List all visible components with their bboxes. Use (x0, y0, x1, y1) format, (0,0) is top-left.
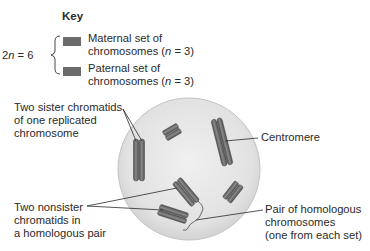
nonsister-chromatids-line2: chromatids in (14, 214, 81, 227)
key-brace (51, 36, 60, 74)
homologous-pair-line3: (one from each set) (265, 229, 362, 242)
homologous-pair-line1: Pair of homologous (265, 203, 361, 216)
sister-chromatids-line3: chromosome (14, 127, 79, 140)
sister-chromatids-line1: Two sister chromatids (14, 101, 122, 114)
centromere-label: Centromere (261, 131, 320, 144)
homologous-pair-line2: chromosomes (265, 216, 335, 229)
sister-chromatids-line2: of one replicated (14, 114, 97, 127)
nonsister-chromatids-line3: a homologous pair (14, 227, 106, 240)
nonsister-chromatids-line1: Two nonsister (14, 201, 83, 214)
